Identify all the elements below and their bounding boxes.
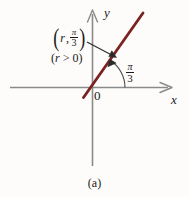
y-axis-label: y xyxy=(104,6,110,19)
point-label-close-paren: ) xyxy=(79,28,85,48)
point-label-angle-numerator: π xyxy=(71,28,78,37)
point-label-angle-fraction: π 3 xyxy=(70,28,78,48)
angle-fraction: π 3 xyxy=(126,62,134,84)
angle-measure-label: π 3 xyxy=(126,62,134,84)
polar-coordinate-figure: y x 0 ( r , π 3 ) (r > 0) π 3 (a) xyxy=(0,0,189,197)
condition-relation: > xyxy=(63,51,70,65)
figure-caption: (a) xyxy=(0,176,189,191)
angle-denominator: 3 xyxy=(126,73,134,84)
point-label-angle-denominator: 3 xyxy=(71,38,78,48)
condition-close-paren: ) xyxy=(78,51,82,65)
point-label-r-symbol: r xyxy=(60,32,65,44)
point-label-open-paren: ( xyxy=(53,28,59,48)
condition-r-symbol: r xyxy=(55,51,60,65)
r-positive-condition-label: (r > 0) xyxy=(51,52,82,64)
point-label-comma: , xyxy=(66,32,69,44)
angle-numerator: π xyxy=(126,62,133,72)
origin-label: 0 xyxy=(94,89,101,102)
x-axis-label: x xyxy=(171,93,177,106)
polar-point-label: ( r , π 3 ) xyxy=(52,28,86,48)
